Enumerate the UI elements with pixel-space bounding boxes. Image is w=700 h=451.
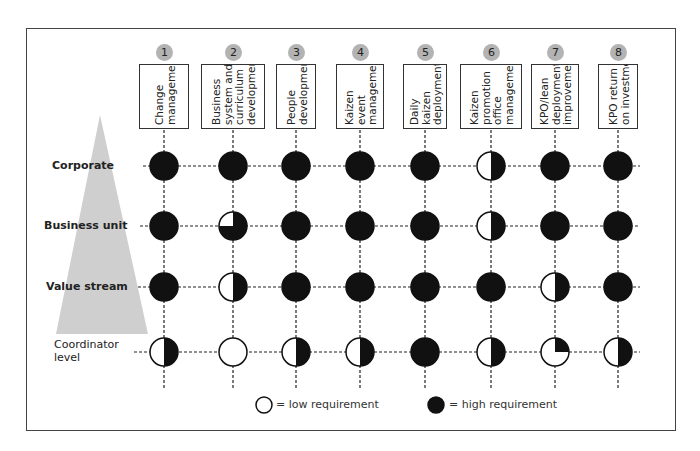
requirement-indicator-full — [282, 273, 310, 301]
column-number-badge: 3 — [288, 44, 305, 61]
row-label: Business unit — [44, 219, 127, 232]
requirement-indicator-full — [604, 152, 632, 180]
requirement-indicator-full — [346, 212, 374, 240]
column-header-box: Daily kaizen deployment — [403, 64, 447, 129]
requirement-indicator-full — [411, 152, 439, 180]
requirement-indicator-half — [219, 273, 247, 301]
column-header-box: Change management — [139, 64, 189, 129]
requirement-indicator-full — [604, 273, 632, 301]
legend-high-icon — [428, 397, 444, 413]
requirement-indicator-full — [541, 212, 569, 240]
requirement-indicator-half — [477, 338, 505, 366]
column-header-label: Business system and curriculum developme… — [211, 64, 257, 125]
requirement-indicator-half — [541, 273, 569, 301]
requirement-indicator-half — [346, 338, 374, 366]
row-label: Corporate — [52, 159, 114, 172]
requirement-indicator-full — [411, 338, 439, 366]
column-number-badge: 8 — [610, 44, 627, 61]
requirement-indicator-three-quarter — [219, 212, 247, 240]
requirement-indicator-quarter — [541, 338, 569, 366]
row-label: Coordinator level — [54, 338, 119, 364]
column-number-badge: 4 — [352, 44, 369, 61]
requirement-indicator-full — [282, 212, 310, 240]
requirement-indicator-half — [150, 338, 178, 366]
column-header-box: Kaizen promotion office management — [460, 64, 522, 129]
row-label: Value stream — [46, 280, 128, 293]
column-number-badge: 2 — [225, 44, 242, 61]
requirement-indicator-empty — [219, 338, 247, 366]
requirement-indicator-full — [150, 273, 178, 301]
column-header-label: KPO return on investment — [608, 64, 631, 125]
requirement-indicator-full — [411, 273, 439, 301]
column-header-label: Daily kaizen deployment — [409, 64, 444, 125]
requirement-indicator-half — [477, 152, 505, 180]
column-number-badge: 6 — [483, 44, 500, 61]
requirement-indicator-half — [282, 338, 310, 366]
requirement-indicator-full — [604, 212, 632, 240]
column-header-label: KPO/lean deployment improvement — [539, 64, 574, 125]
column-header-box: People development — [276, 64, 316, 129]
legend-low-icon — [256, 397, 272, 413]
legend-high-label: = high requirement — [449, 398, 557, 411]
column-header-box: KPO/lean deployment improvement — [531, 64, 579, 129]
column-number-badge: 5 — [417, 44, 434, 61]
column-header-box: Kaizen event management — [336, 64, 384, 129]
requirement-indicator-full — [477, 273, 505, 301]
column-number-badge: 1 — [156, 44, 173, 61]
requirement-indicator-full — [282, 152, 310, 180]
legend-low-label: = low requirement — [276, 398, 379, 411]
column-header-label: Kaizen event management — [344, 64, 379, 125]
column-number-badge: 7 — [547, 44, 564, 61]
requirement-indicator-full — [346, 273, 374, 301]
requirement-indicator-full — [219, 152, 247, 180]
requirement-indicator-full — [150, 152, 178, 180]
column-header-box: KPO return on investment — [598, 64, 638, 129]
column-header-label: People development — [286, 64, 309, 125]
requirement-indicator-half — [604, 338, 632, 366]
requirement-indicator-full — [150, 212, 178, 240]
column-header-label: Change management — [154, 64, 177, 125]
requirement-indicator-half — [477, 212, 505, 240]
column-header-label: Kaizen promotion office management — [469, 64, 515, 125]
requirement-indicator-full — [411, 212, 439, 240]
column-header-box: Business system and curriculum developme… — [201, 64, 265, 129]
requirement-indicator-full — [541, 152, 569, 180]
requirement-indicator-full — [346, 152, 374, 180]
